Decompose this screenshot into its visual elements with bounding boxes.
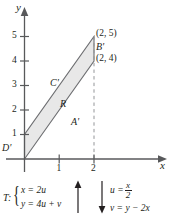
x-axis-label: x: [160, 160, 165, 171]
arrow-down-icon: [96, 180, 108, 214]
edge-label-a-prime: A': [71, 117, 79, 127]
transformation-block: T: { x = 2u y = 4u + v u = x 2: [0, 178, 173, 216]
point-label-2-4: (2, 4): [96, 54, 117, 64]
y-tick-label-5: 5: [12, 31, 17, 41]
inverse-equations: u = x 2 v = y − 2x: [110, 181, 150, 216]
edge-label-d-prime: D': [2, 143, 11, 153]
arrow-up-icon: [72, 180, 84, 214]
x-tick-label-1: 1: [57, 164, 62, 174]
y-tick-label-1: 1: [12, 129, 17, 139]
forward-equations: x = 2u y = 4u + v: [21, 183, 61, 211]
y-tick-label-3: 3: [12, 80, 17, 90]
forward-equation-x: x = 2u: [21, 183, 61, 197]
y-axis-label: y: [16, 2, 21, 13]
region-label-r: R: [60, 99, 66, 109]
fraction-x-over-2: x 2: [125, 181, 132, 199]
x-tick-label-2: 2: [91, 164, 96, 174]
fraction-denominator: 2: [125, 191, 132, 199]
math-figure-parallelogram-transform: y x 5 4 3 2 1 1 2 (2, 5) (2, 4) B' C' R …: [0, 0, 173, 216]
inverse-equation-u: u = x 2: [110, 181, 150, 199]
edge-label-c-prime: C': [50, 78, 59, 88]
y-axis-arrowhead: [21, 7, 29, 16]
y-tick-label-4: 4: [12, 56, 17, 66]
inverse-u-lhs: u =: [110, 184, 124, 197]
y-tick-label-2: 2: [12, 105, 17, 115]
point-label-2-5: (2, 5): [96, 29, 117, 39]
edge-label-b-prime: B': [96, 42, 104, 52]
forward-equation-y: y = 4u + v: [21, 197, 61, 211]
left-brace-glyph: {: [13, 183, 20, 206]
coordinate-plot: [0, 0, 173, 180]
fraction-numerator: x: [125, 181, 131, 189]
inverse-equation-v: v = y − 2x: [110, 199, 150, 216]
transform-name: T:: [3, 192, 11, 203]
